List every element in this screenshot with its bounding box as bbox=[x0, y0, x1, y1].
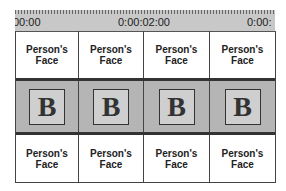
timeline-ruler[interactable]: 00:00 0:00:02:00 0:00: bbox=[15, 10, 275, 32]
ruler-ticks bbox=[15, 10, 275, 14]
bottom-track: Person's Face Person's Face Person's Fac… bbox=[16, 135, 275, 182]
clip-label: Person's Face bbox=[148, 148, 205, 170]
top-track: Person's Face Person's Face Person's Fac… bbox=[16, 31, 275, 78]
clip-label: Person's Face bbox=[20, 44, 74, 66]
clip-label: Person's Face bbox=[83, 148, 139, 170]
thumbnail-cell[interactable]: B bbox=[144, 81, 210, 132]
clip-cell[interactable]: Person's Face bbox=[16, 31, 79, 78]
clip-cell[interactable]: Person's Face bbox=[79, 31, 144, 78]
timecode-end: 0:00: bbox=[247, 16, 271, 28]
thumbnail-track: B B B B bbox=[16, 78, 275, 135]
clip-label: Person's Face bbox=[83, 44, 139, 66]
letter-b-thumbnail-icon: B bbox=[93, 89, 129, 125]
clip-cell[interactable]: Person's Face bbox=[144, 31, 210, 78]
letter-b-thumbnail-icon: B bbox=[29, 89, 65, 125]
thumbnail-cell[interactable]: B bbox=[16, 81, 79, 132]
clip-label: Person's Face bbox=[214, 44, 271, 66]
storyboard-grid: Person's Face Person's Face Person's Fac… bbox=[15, 31, 276, 183]
clip-label: Person's Face bbox=[148, 44, 205, 66]
thumbnail-cell[interactable]: B bbox=[210, 81, 275, 132]
clip-label: Person's Face bbox=[214, 148, 271, 170]
timecode-mid: 0:00:02:00 bbox=[118, 16, 170, 28]
letter-b-thumbnail-icon: B bbox=[225, 89, 261, 125]
clip-cell[interactable]: Person's Face bbox=[210, 31, 275, 78]
letter-b-thumbnail-icon: B bbox=[159, 89, 195, 125]
clip-label: Person's Face bbox=[20, 148, 74, 170]
clip-cell[interactable]: Person's Face bbox=[16, 135, 79, 182]
clip-cell[interactable]: Person's Face bbox=[210, 135, 275, 182]
clip-cell[interactable]: Person's Face bbox=[144, 135, 210, 182]
timecode-start: 00:00 bbox=[15, 16, 41, 28]
clip-cell[interactable]: Person's Face bbox=[79, 135, 144, 182]
thumbnail-cell[interactable]: B bbox=[79, 81, 144, 132]
